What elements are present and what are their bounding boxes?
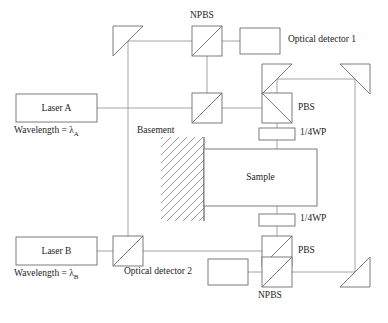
sample-label: Sample [204,172,317,182]
laser-b-label: Laser B [16,246,97,256]
detector-2-box [208,259,248,285]
pbs-bottom-label: PBS [298,246,315,256]
wavelength-b-label: Wavelength = λB [14,269,79,281]
qwp-top-box [259,128,295,140]
detector-1-box [240,28,280,54]
basement-hatched-region [155,125,210,231]
pbs-top-label: PBS [298,103,315,113]
npbs-bottom-label: NPBS [258,291,282,301]
basement-label: Basement [137,126,174,136]
laser-a-label: Laser A [16,103,97,113]
qwp-bottom-label: 1/4WP [300,214,326,224]
detector-1-label: Optical detector 1 [288,35,356,45]
wavelength-b-subscript: B [74,273,79,281]
optical-setup-diagram: NPBS Optical detector 1 Laser A Waveleng… [0,0,388,323]
qwp-bottom-box [259,214,295,226]
npbs-top-label: NPBS [190,11,214,21]
wavelength-a-label: Wavelength = λA [14,126,79,138]
wavelength-a-subscript: A [74,130,79,138]
detector-2-label: Optical detector 2 [124,267,192,277]
qwp-top-label: 1/4WP [300,128,326,138]
wavelength-b-prefix: Wavelength = [14,268,69,278]
wavelength-a-prefix: Wavelength = [14,125,69,135]
